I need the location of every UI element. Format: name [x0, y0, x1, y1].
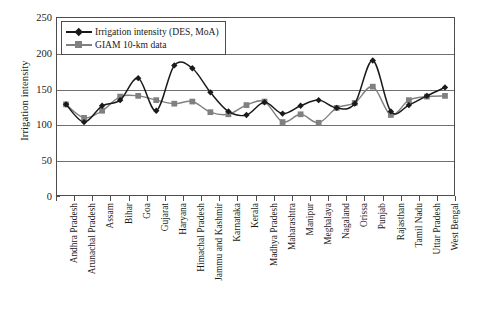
y-tick-label-100: 100: [22, 119, 52, 130]
legend-item-2: GIAM 10-km data: [66, 38, 219, 51]
x-tick-mark: [383, 196, 384, 201]
x-axis-label-arunachal-pradesh: Arunachal Pradesh: [87, 203, 97, 274]
legend-item-1: Irrigation intensity (DES, MoA): [66, 25, 219, 38]
y-tick-label-150: 150: [22, 83, 52, 94]
x-tick-mark: [183, 196, 184, 201]
data-point: [370, 84, 376, 90]
x-tick-mark: [74, 196, 75, 201]
x-axis-label-rajasthan: Rajasthan: [396, 203, 406, 240]
x-axis-label-haryana: Haryana: [178, 203, 188, 235]
x-tick-mark: [401, 196, 402, 201]
x-tick-mark: [364, 196, 365, 201]
x-axis-label-goa: Goa: [142, 203, 152, 219]
y-axis-ticks: 250200150100500: [20, 17, 52, 196]
data-point: [279, 110, 285, 116]
x-tick-mark: [92, 196, 93, 201]
data-point: [171, 101, 177, 107]
legend-marker-icon: [66, 26, 92, 37]
data-point: [135, 93, 141, 99]
x-axis-label-andhra-pradesh: Andhra Pradesh: [69, 203, 79, 263]
x-axis-label-assam: Assam: [105, 203, 115, 229]
data-point: [189, 99, 195, 105]
x-tick-mark: [219, 196, 220, 201]
y-tick-label-0: 0: [22, 191, 52, 202]
x-axis-label-kerala: Kerala: [250, 203, 260, 228]
x-tick-mark: [56, 196, 57, 201]
y-tick-label-50: 50: [22, 155, 52, 166]
x-tick-mark: [201, 196, 202, 201]
legend-label: Irrigation intensity (DES, MoA): [95, 26, 219, 37]
x-axis-label-maharashtra: Maharashtra: [287, 203, 297, 250]
x-axis-label-orissa: Orissa: [359, 203, 369, 227]
x-tick-mark: [129, 196, 130, 201]
x-axis-label-himachal-pradesh: Himachal Pradesh: [196, 203, 206, 272]
x-tick-mark: [455, 196, 456, 201]
x-tick-mark: [346, 196, 347, 201]
data-point: [280, 119, 286, 125]
x-tick-mark: [147, 196, 148, 201]
x-axis-label-gujarat: Gujarat: [160, 203, 170, 231]
y-tick-label-250: 250: [22, 12, 52, 23]
chart-legend: Irrigation intensity (DES, MoA)GIAM 10-k…: [61, 21, 226, 55]
x-tick-mark: [310, 196, 311, 201]
data-point: [442, 93, 448, 99]
data-point: [153, 97, 159, 103]
data-point: [315, 97, 321, 103]
legend-marker-icon: [66, 39, 92, 50]
x-tick-mark: [419, 196, 420, 201]
x-axis-label-west-bengal: West Bengal: [450, 203, 460, 251]
data-point: [243, 112, 249, 118]
x-tick-mark: [292, 196, 293, 201]
legend-label: GIAM 10-km data: [95, 39, 166, 50]
data-point: [442, 84, 448, 90]
data-point: [298, 111, 304, 117]
x-tick-mark: [328, 196, 329, 201]
x-axis-label-karnataka: Karnataka: [232, 203, 242, 242]
x-axis-label-nagaland: Nagaland: [341, 203, 351, 239]
chart-figure: Irrigation intensity 250200150100500 And…: [0, 0, 479, 311]
x-axis-labels: Andhra PradeshArunachal PradeshAssamBiha…: [56, 203, 455, 309]
x-axis-label-meghalaya: Meghalaya: [323, 203, 333, 245]
data-point: [208, 109, 214, 115]
x-tick-mark: [256, 196, 257, 201]
data-point: [316, 120, 322, 126]
x-axis-ticks: [56, 196, 455, 202]
x-axis-label-tamil-nadu: Tamil Nadu: [414, 203, 424, 248]
data-point: [297, 103, 303, 109]
x-axis-label-bihar: Bihar: [124, 203, 134, 224]
data-point: [244, 102, 250, 108]
x-axis-label-punjab: Punjab: [377, 203, 387, 229]
x-tick-mark: [274, 196, 275, 201]
x-axis-label-manipur: Manipur: [305, 203, 315, 235]
y-tick-label-200: 200: [22, 47, 52, 58]
x-axis-label-madhya-pradesh: Madhya Pradesh: [269, 203, 279, 266]
x-axis-label-jammu-and-kashmir: Jammu and Kashmir: [214, 203, 224, 281]
x-tick-mark: [437, 196, 438, 201]
x-tick-mark: [237, 196, 238, 201]
x-tick-mark: [110, 196, 111, 201]
x-axis-label-uttar-pradesh: Uttar Pradesh: [432, 203, 442, 255]
x-tick-mark: [165, 196, 166, 201]
